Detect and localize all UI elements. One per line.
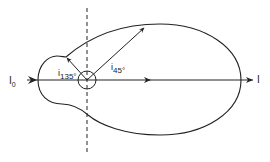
label-i135: i135° [58, 68, 77, 81]
label-transmitted-intensity: I [257, 74, 260, 85]
scattering-diagram: I0 I i135° i45° [0, 0, 270, 162]
label-i45: i45° [111, 62, 125, 75]
label-incident-intensity: I0 [9, 75, 16, 88]
